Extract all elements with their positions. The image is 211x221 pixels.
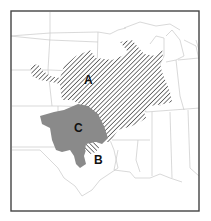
label-region-c: C (74, 121, 83, 135)
label-region-b: B (94, 153, 103, 167)
label-region-a: A (84, 73, 93, 87)
map: A B C (0, 0, 211, 221)
